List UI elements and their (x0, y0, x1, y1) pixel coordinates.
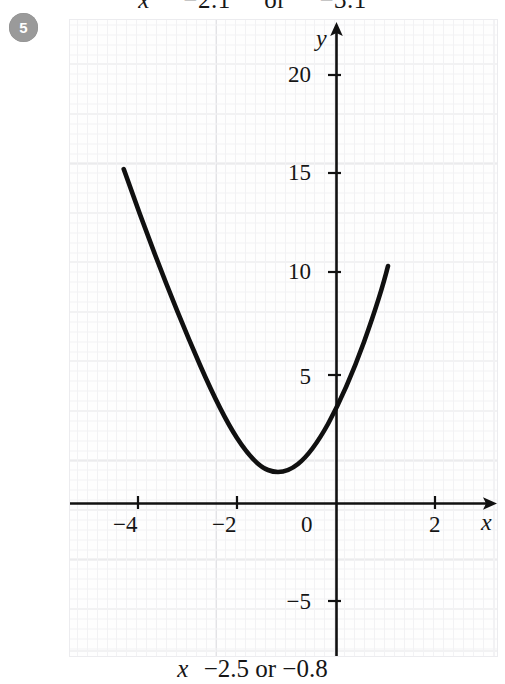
x-tick-label-neg4: −4 (113, 513, 137, 536)
bottom-answer-text: −2.5 or −0.8 (204, 655, 328, 682)
bottom-answer-variable: x (177, 655, 188, 682)
y-tick-label-20: 20 (266, 63, 311, 86)
x-axis-label: x (481, 510, 492, 534)
x-tick-label-neg2: −2 (212, 513, 236, 536)
graph-canvas (0, 0, 505, 684)
x-tick-label-2: 2 (429, 513, 441, 536)
y-axis-label: y (316, 26, 327, 50)
parabola-curve (124, 169, 388, 472)
y-tick-label-15: 15 (266, 161, 311, 184)
y-tick-label-10: 10 (266, 260, 311, 283)
y-axis-ticks (328, 75, 341, 601)
x-tick-label-0: 0 (301, 513, 313, 536)
bottom-answer-line: x −2.5 or −0.8 (0, 655, 505, 683)
y-tick-label-5: 5 (266, 365, 311, 388)
y-tick-label-neg5: −5 (256, 590, 311, 613)
